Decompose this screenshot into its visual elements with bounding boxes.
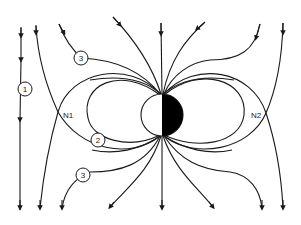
neutral-point-n1-label: N1 [63, 111, 74, 120]
svg-text:3: 3 [81, 171, 86, 180]
field-line-through-n2 [266, 23, 283, 208]
field-line-through-n1 [36, 25, 58, 208]
svg-text:2: 2 [96, 136, 101, 145]
magnetic-field-diagram: 1 2 3 3 N1 N2 [0, 0, 301, 225]
bottom-diverging-lines [92, 136, 262, 208]
label-2: 2 [91, 133, 105, 147]
neutral-point-n2-label: N2 [251, 111, 262, 120]
label-3-bottom: 3 [76, 168, 90, 182]
svg-text:1: 1 [23, 85, 28, 94]
field-line-1 [20, 27, 21, 210]
magnetized-sphere [141, 94, 183, 136]
label-3-top: 3 [74, 51, 88, 65]
label-1: 1 [18, 82, 32, 96]
svg-text:3: 3 [79, 54, 84, 63]
top-converging-lines [90, 17, 260, 94]
